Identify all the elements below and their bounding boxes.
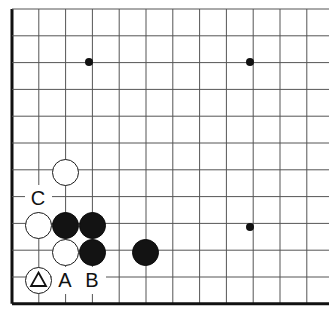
- star-point: [85, 58, 93, 66]
- white-stone[interactable]: [52, 239, 79, 266]
- black-stone[interactable]: [79, 239, 106, 266]
- point-label-a[interactable]: A: [52, 267, 79, 294]
- white-stone[interactable]: [25, 212, 52, 239]
- white-stone[interactable]: [52, 159, 79, 186]
- black-stone[interactable]: [79, 212, 106, 239]
- black-stone[interactable]: [52, 212, 79, 239]
- go-diagram: CAB: [0, 0, 329, 323]
- white-stone[interactable]: [25, 267, 52, 294]
- black-stone[interactable]: [132, 239, 159, 266]
- star-point: [246, 223, 254, 231]
- point-label-c[interactable]: C: [25, 185, 52, 212]
- star-point: [246, 58, 254, 66]
- point-label-b[interactable]: B: [79, 267, 106, 294]
